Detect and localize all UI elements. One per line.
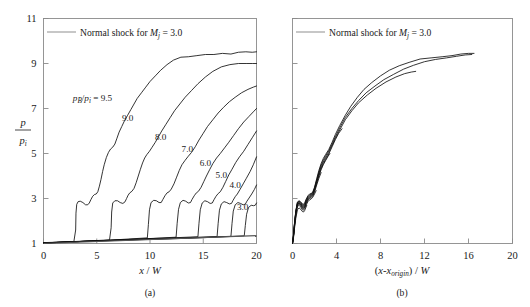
x-tick-label: 5 [94, 250, 99, 261]
legend-a: Normal shock for Mj = 3.0 [47, 27, 182, 40]
legend-label-a: Normal shock for Mj = 3.0 [80, 27, 182, 40]
y-tick-label: 11 [26, 13, 36, 24]
pressure-curve [293, 71, 416, 243]
panel-a-svg: 05101520 1357911 pB/pi = 9.59.08.07.06.0… [0, 0, 268, 307]
pressure-curves-a [44, 52, 257, 243]
legend-text-pre-a: Normal shock for [80, 27, 150, 38]
curve-label: 5.0 [216, 170, 228, 180]
curve-label: 6.0 [200, 158, 212, 168]
curve-label: 3.0 [237, 202, 249, 212]
x-tick-label: 20 [251, 250, 262, 261]
x-axis-tick-labels-b: 048121620 [290, 250, 518, 261]
x-tick-label: 4 [334, 250, 340, 261]
curve-label-main: pB/pi = 9.5 [72, 93, 113, 105]
y-axis-label-denominator: pi [18, 135, 26, 148]
legend-text-post-a: = 3.0 [160, 27, 182, 38]
x-tick-label: 0 [41, 250, 46, 261]
y-axis-tick-labels-a: 1357911 [26, 13, 36, 249]
y-axis-label-a: p pi [15, 117, 31, 148]
legend-label-b: Normal shock for Mj = 3.0 [329, 27, 431, 40]
pressure-curve [293, 205, 307, 243]
x-axis-label-a: x / W [138, 265, 162, 276]
panel-b: 048121620 Normal shock for Mj = 3.0 (x-x… [262, 0, 530, 307]
curve-label: 8.0 [155, 132, 167, 142]
pressure-curve [44, 64, 257, 244]
pressure-curve [293, 129, 343, 244]
curve-label: 9.0 [122, 113, 134, 123]
curve-label: 7.0 [182, 144, 194, 154]
curve-labels-a: pB/pi = 9.59.08.07.06.05.04.03.0 [72, 93, 249, 212]
x-tick-label: 15 [198, 250, 209, 261]
y-axis-label-numerator: p [19, 117, 25, 128]
pressure-curves-b [293, 53, 475, 243]
x-tick-label: 8 [378, 250, 383, 261]
y-tick-label: 5 [31, 148, 36, 159]
panel-b-axes: 048121620 [290, 19, 518, 261]
pressure-curve [293, 55, 472, 244]
pressure-curve [44, 185, 257, 243]
panel-a: 05101520 1357911 pB/pi = 9.59.08.07.06.0… [0, 0, 268, 307]
y-tick-label: 1 [31, 238, 36, 249]
x-tick-label: 10 [145, 250, 156, 261]
x-tick-label: 0 [290, 250, 295, 261]
pressure-curve [293, 53, 475, 243]
x-tick-label: 16 [463, 250, 474, 261]
x-axis-label-b: (x-xorigin) / W [375, 265, 431, 278]
y-axis-ticks-a [44, 19, 49, 244]
curve-label: 4.0 [229, 180, 241, 190]
panel-caption-b: (b) [396, 287, 407, 299]
x-axis-ticks-b [293, 239, 513, 244]
legend-text-post-b: = 3.0 [409, 27, 431, 38]
panel-caption-a: (a) [145, 287, 156, 299]
y-tick-label: 3 [31, 193, 36, 204]
plot-frame-a [44, 19, 257, 244]
y-tick-label: 7 [31, 103, 36, 114]
figure-container: 05101520 1357911 pB/pi = 9.59.08.07.06.0… [0, 0, 530, 307]
x-axis-tick-labels-a: 05101520 [41, 250, 262, 261]
x-tick-label: 20 [507, 250, 518, 261]
panel-b-svg: 048121620 Normal shock for Mj = 3.0 (x-x… [262, 0, 530, 307]
x-tick-label: 12 [419, 250, 430, 261]
legend-b: Normal shock for Mj = 3.0 [296, 27, 431, 40]
plot-frame-b [293, 19, 513, 244]
y-tick-label: 9 [31, 58, 36, 69]
legend-text-pre-b: Normal shock for [329, 27, 399, 38]
panel-a-axes: 05101520 1357911 [26, 13, 261, 260]
